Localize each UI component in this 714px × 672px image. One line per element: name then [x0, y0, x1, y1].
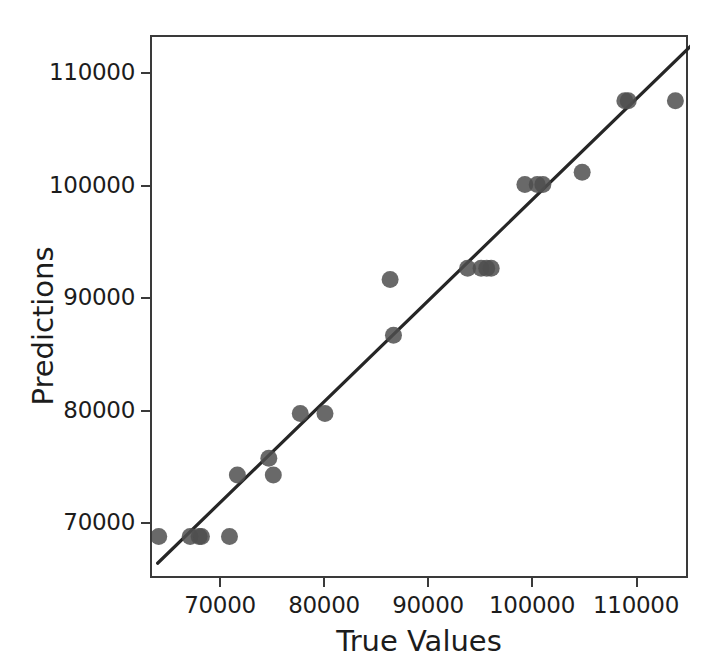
scatter-point	[316, 405, 333, 422]
y-tick-mark-100000	[141, 185, 150, 187]
scatter-point	[620, 92, 637, 109]
y-tick-mark-70000	[141, 522, 150, 524]
scatter-plot-figure: 110000 100000 90000 80000 70000 70000 80…	[0, 0, 714, 672]
scatter-point	[483, 260, 500, 277]
y-tick-label-100000: 100000	[10, 172, 135, 198]
y-tick-label-80000: 80000	[10, 397, 135, 423]
y-tick-label-90000: 90000	[10, 284, 135, 310]
y-tick-mark-90000	[141, 297, 150, 299]
scatter-point	[221, 528, 238, 545]
reference-line-layer	[158, 37, 690, 563]
scatter-points-layer	[152, 92, 684, 545]
y-tick-label-110000: 110000	[10, 59, 135, 85]
scatter-point	[534, 176, 551, 193]
scatter-point	[292, 405, 309, 422]
y-tick-mark-110000	[141, 72, 150, 74]
scatter-point	[260, 450, 277, 467]
scatter-point	[152, 528, 167, 545]
reference-line	[158, 37, 690, 563]
plot-canvas	[152, 37, 690, 580]
y-tick-label-70000: 70000	[10, 509, 135, 535]
plot-area	[150, 35, 688, 578]
scatter-point	[385, 327, 402, 344]
scatter-point	[574, 164, 591, 181]
y-axis-title: Predictions	[26, 246, 60, 405]
scatter-point	[382, 271, 399, 288]
scatter-point	[667, 92, 684, 109]
scatter-point	[229, 466, 246, 483]
scatter-point	[265, 466, 282, 483]
x-axis-title: True Values	[150, 624, 688, 658]
scatter-point	[193, 528, 210, 545]
x-tick-label-110000: 110000	[566, 592, 706, 618]
y-tick-mark-80000	[141, 410, 150, 412]
